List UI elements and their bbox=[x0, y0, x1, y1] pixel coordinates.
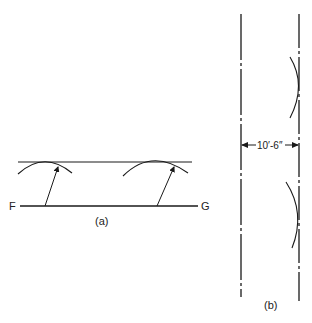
figure-b-caption: (b) bbox=[264, 299, 277, 311]
arc-swing-left bbox=[18, 162, 72, 174]
diagram-canvas: F G (a) 10′-6″ (b) bbox=[0, 0, 312, 323]
figure-b: 10′-6″ (b) bbox=[241, 14, 299, 311]
arc-upper bbox=[290, 57, 299, 118]
radius-arrow-right bbox=[157, 167, 174, 206]
radius-arrow-left bbox=[45, 167, 58, 206]
arc-lower bbox=[286, 182, 298, 248]
figure-a: F G (a) bbox=[9, 161, 210, 227]
dimension-text: 10′-6″ bbox=[257, 140, 283, 151]
arc-swing-right bbox=[123, 161, 188, 176]
figure-a-caption: (a) bbox=[95, 215, 108, 227]
point-label-f: F bbox=[9, 200, 16, 212]
point-label-g: G bbox=[201, 200, 210, 212]
